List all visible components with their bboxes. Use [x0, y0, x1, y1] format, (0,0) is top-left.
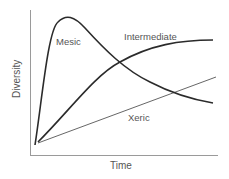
diversity-time-chart: Mesic Intermediate Xeric Time Diversity [0, 0, 229, 179]
mesic-label: Mesic [56, 36, 81, 47]
intermediate-label: Intermediate [124, 31, 177, 42]
xeric-label: Xeric [128, 112, 150, 123]
y-axis-label: Diversity [11, 60, 22, 98]
xeric-curve [38, 77, 216, 143]
intermediate-curve [38, 40, 213, 142]
chart-canvas: Mesic Intermediate Xeric Time Diversity [0, 0, 229, 179]
x-axis-label: Time [110, 160, 132, 171]
